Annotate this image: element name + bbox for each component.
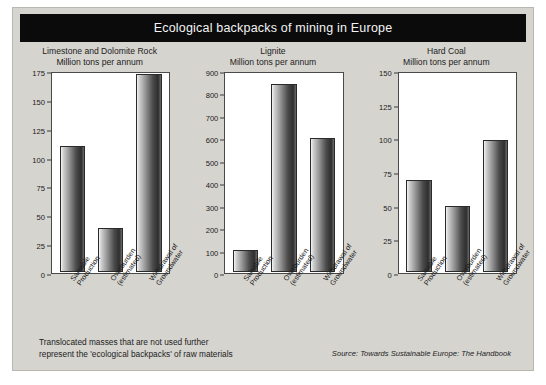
y-axis-tick: 400 [206, 181, 225, 190]
panel-title: Hard Coal [427, 46, 466, 56]
figure-container: Ecological backpacks of mining in Europe… [13, 8, 533, 370]
source-attribution: Source: Towards Sustainable Europe: The … [332, 349, 511, 358]
plot-area [224, 72, 343, 274]
panel-title: Lignite [260, 46, 285, 56]
y-axis-tick: 125 [32, 126, 51, 135]
bar[interactable] [483, 140, 508, 272]
x-axis-labels: SaleableProductionOverburden(estimated)W… [398, 276, 517, 332]
y-axis-tick: 800 [206, 91, 225, 100]
y-axis-tick: 900 [206, 69, 225, 78]
y-axis-tick-label: 75 [383, 170, 393, 179]
bar-slot [271, 74, 296, 272]
bar-group [400, 74, 515, 272]
y-axis-tick: 0 [41, 271, 51, 280]
y-axis-tick: 200 [206, 226, 225, 235]
y-axis-tick-label: 500 [206, 158, 221, 167]
y-axis-tick-label: 200 [206, 226, 221, 235]
x-label-slot: SaleableProduction [231, 276, 257, 332]
y-axis-tick: 50 [383, 203, 397, 212]
y-axis-tick-label: 800 [206, 91, 221, 100]
y-axis-tick: 100 [206, 248, 225, 257]
y-axis-tick: 25 [37, 242, 51, 251]
x-axis-labels: SaleableProductionOverburden(estimated)W… [51, 276, 170, 332]
y-axis-tick-label: 600 [206, 136, 221, 145]
y-axis-tick: 75 [383, 170, 397, 179]
panel-heading: Limestone and Dolomite RockMillion tons … [13, 46, 186, 68]
y-axis-tick-label: 75 [37, 184, 47, 193]
y-axis-tick: 300 [206, 203, 225, 212]
y-axis-tick-label: 100 [379, 136, 394, 145]
y-axis-tick-label: 175 [32, 69, 47, 78]
y-axis-tick: 150 [32, 97, 51, 106]
chart-panel: Limestone and Dolomite RockMillion tons … [13, 46, 186, 334]
y-axis-tick: 175 [32, 69, 51, 78]
y-axis-tick-label: 400 [206, 181, 221, 190]
plot-area [51, 72, 170, 274]
y-axis-tick: 125 [379, 102, 398, 111]
x-label-slot: Withdrawal ofGroundwater [137, 276, 163, 332]
y-axis-tick: 100 [32, 155, 51, 164]
y-axis-tick-label: 100 [32, 155, 47, 164]
y-axis-tick: 75 [37, 184, 51, 193]
chart-panel: Hard CoalMillion tons per annum025507510… [360, 46, 533, 334]
x-label-slot: Withdrawal ofGroundwater [484, 276, 510, 332]
y-axis-tick-label: 300 [206, 203, 221, 212]
y-axis: 0100200300400500600700800900 [186, 72, 224, 276]
y-axis-tick-label: 25 [383, 237, 393, 246]
y-axis: 0255075100125150 [360, 72, 398, 276]
bar-group [226, 74, 341, 272]
bar[interactable] [136, 74, 161, 272]
y-axis-tick: 700 [206, 113, 225, 122]
footnote: Translocated masses that are not used fu… [39, 337, 233, 360]
y-axis-tick-label: 125 [379, 102, 394, 111]
x-label-slot: Overburden(estimated) [98, 276, 124, 332]
page-title: Ecological backpacks of mining in Europe [154, 21, 393, 35]
y-axis-tick-label: 900 [206, 69, 221, 78]
y-axis-tick-label: 125 [32, 126, 47, 135]
bar-slot [483, 74, 508, 272]
y-axis-tick: 25 [383, 237, 397, 246]
panel-subtitle: Million tons per annum [186, 57, 359, 68]
bar-slot [98, 74, 123, 272]
bar-group [53, 74, 168, 272]
y-axis-tick: 500 [206, 158, 225, 167]
y-axis-tick: 0 [214, 271, 224, 280]
y-axis-tick-label: 50 [37, 213, 47, 222]
bar-slot [310, 74, 335, 272]
bar[interactable] [60, 146, 85, 272]
y-axis-tick-label: 100 [206, 248, 221, 257]
y-axis-tick: 0 [387, 271, 397, 280]
x-label-slot: SaleableProduction [58, 276, 84, 332]
y-axis-tick-label: 150 [32, 97, 47, 106]
y-axis-tick-label: 150 [379, 69, 394, 78]
footnote-line-1: Translocated masses that are not used fu… [39, 337, 208, 347]
chart-panel: LigniteMillion tons per annum01002003004… [186, 46, 359, 334]
x-label-slot: SaleableProduction [404, 276, 430, 332]
x-label-slot: Overburden(estimated) [271, 276, 297, 332]
bar-slot [445, 74, 470, 272]
bar[interactable] [310, 138, 335, 272]
panel-subtitle: Million tons per annum [13, 57, 186, 68]
panel-heading: LigniteMillion tons per annum [186, 46, 359, 68]
x-axis-labels: SaleableProductionOverburden(estimated)W… [224, 276, 343, 332]
panel-title: Limestone and Dolomite Rock [42, 46, 157, 56]
bar-slot [60, 74, 85, 272]
panel-subtitle: Million tons per annum [360, 57, 533, 68]
y-axis-tick: 150 [379, 69, 398, 78]
x-label-slot: Withdrawal ofGroundwater [311, 276, 337, 332]
footnote-line-2: represent the 'ecological backpacks' of … [39, 349, 233, 361]
panel-heading: Hard CoalMillion tons per annum [360, 46, 533, 68]
y-axis-tick-label: 700 [206, 113, 221, 122]
chart-panels: Limestone and Dolomite RockMillion tons … [13, 46, 533, 334]
y-axis-tick: 50 [37, 213, 51, 222]
y-axis-tick: 600 [206, 136, 225, 145]
chart-title-bar: Ecological backpacks of mining in Europe [20, 14, 526, 42]
y-axis-tick-label: 25 [37, 242, 47, 251]
y-axis-tick-label: 50 [383, 203, 393, 212]
bar-slot [233, 74, 258, 272]
plot-area [398, 72, 517, 274]
bar-slot [406, 74, 431, 272]
x-label-slot: Overburden(estimated) [444, 276, 470, 332]
bar[interactable] [271, 84, 296, 272]
y-axis: 0255075100125150175 [13, 72, 51, 276]
